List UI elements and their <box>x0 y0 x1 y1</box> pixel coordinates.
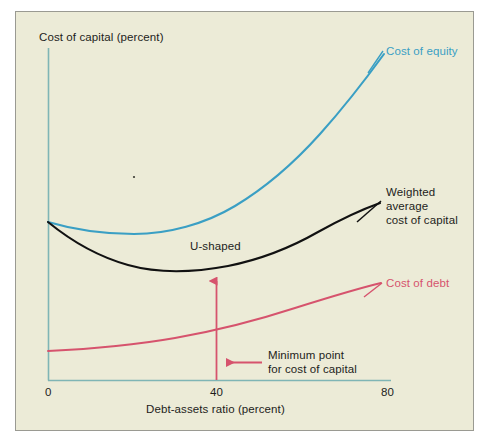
chart-figure: Cost of capital (percent) Debt-assets ra… <box>0 0 491 446</box>
annotation-minimum-point-line2: for cost of capital <box>268 363 357 377</box>
series-cost-of-equity <box>48 54 384 234</box>
x-axis-title: Debt-assets ratio (percent) <box>146 403 285 417</box>
annotation-minimum-point-line1: Minimum point <box>268 349 344 363</box>
y-axis-title: Cost of capital (percent) <box>39 31 164 45</box>
print-speck <box>133 176 135 178</box>
series-weighted-average-cost-of-capital <box>48 203 380 271</box>
annotation-u-shaped: U-shaped <box>190 240 241 254</box>
series-cost-of-debt <box>48 283 381 351</box>
series-label-weighted-average-line2: average <box>386 200 428 214</box>
series-label-weighted-average-line1: Weighted <box>386 186 435 200</box>
series-label-cost-of-debt: Cost of debt <box>386 277 449 291</box>
x-tick-label-80: 80 <box>381 386 394 400</box>
x-tick-label-0: 0 <box>45 386 52 400</box>
x-tick-label-40: 40 <box>210 386 223 400</box>
leader-line-cost-of-equity <box>368 51 383 73</box>
series-label-cost-of-equity: Cost of equity <box>386 45 458 59</box>
series-label-weighted-average-line3: cost of capital <box>386 214 458 228</box>
